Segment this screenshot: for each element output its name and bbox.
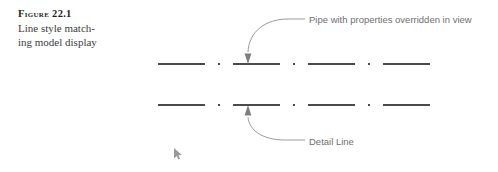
figure-page: Figure 22.1 Line style match- ing model … [0, 0, 498, 172]
annotation-label-pipe: Pipe with properties overridden in view [309, 14, 472, 25]
leader-line-pipe [248, 19, 305, 52]
arrowhead-up-icon [245, 105, 252, 116]
arrowhead-down-icon [245, 54, 252, 65]
mouse-cursor-icon [174, 148, 182, 160]
annotation-label-detail: Detail Line [309, 136, 354, 147]
leader-line-detail [248, 117, 305, 140]
drawing-canvas [0, 0, 498, 172]
